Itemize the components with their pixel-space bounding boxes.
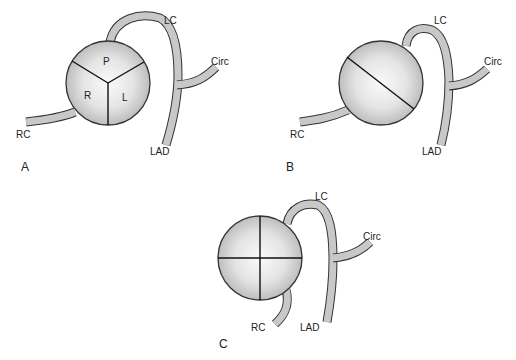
label-circ: Circ: [363, 231, 381, 242]
label-lad: LAD: [150, 146, 169, 157]
panel-c: LC Circ LAD RC C: [218, 191, 381, 351]
panel-label-b: B: [286, 160, 294, 174]
label-circ: Circ: [484, 56, 502, 67]
label-lad: LAD: [422, 146, 441, 157]
label-lad: LAD: [300, 322, 319, 333]
right-coronary-artery: [300, 110, 348, 122]
label-rc: RC: [251, 322, 265, 333]
panel-a: P R L LC Circ LAD RC A: [16, 15, 229, 174]
label-circ: Circ: [211, 56, 229, 67]
label-lc: LC: [164, 15, 177, 26]
label-lc: LC: [434, 15, 447, 26]
panel-b: LC Circ LAD RC B: [286, 15, 502, 174]
right-coronary-artery: [26, 112, 75, 122]
figure-canvas: P R L LC Circ LAD RC A LC Circ LAD RC B: [0, 0, 516, 360]
panel-label-c: C: [219, 337, 228, 351]
label-rc: RC: [290, 129, 304, 140]
cusp-label-l: L: [122, 92, 128, 103]
label-lc: LC: [315, 191, 328, 202]
panel-label-a: A: [21, 160, 29, 174]
label-rc: RC: [16, 129, 30, 140]
cusp-label-r: R: [84, 90, 91, 101]
cusp-label-p: P: [103, 56, 110, 67]
